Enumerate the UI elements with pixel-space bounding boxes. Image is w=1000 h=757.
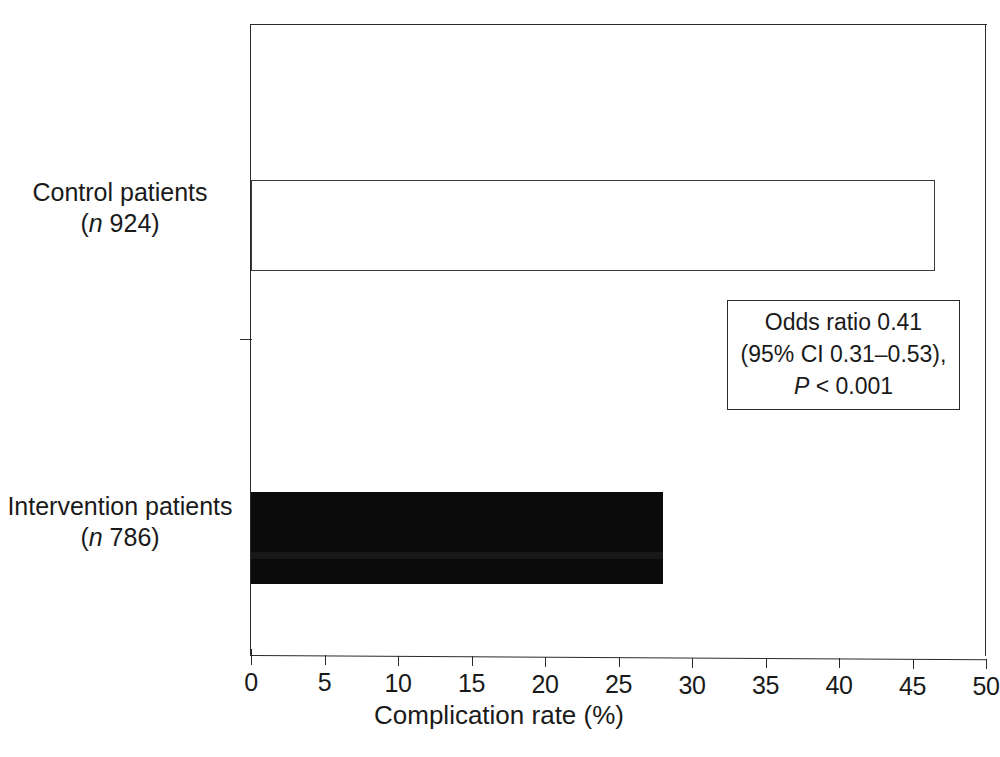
x-axis-tick-20	[545, 657, 546, 667]
p-value-line: P < 0.001	[794, 372, 893, 402]
x-axis-tick-25	[619, 657, 620, 667]
category-label-control-line1: Control patients	[0, 177, 245, 208]
x-axis-tick-label-0: 0	[244, 668, 258, 697]
x-axis-tick-label-35: 35	[752, 671, 779, 700]
x-axis-tick-15	[472, 656, 473, 666]
odds-ratio-annotation-box: Odds ratio 0.41 (95% CI 0.31–0.53), P < …	[727, 300, 960, 410]
bar-control-patients	[251, 180, 935, 271]
x-axis-title: Complication rate (%)	[0, 700, 998, 731]
x-axis-tick-label-5: 5	[318, 668, 332, 697]
x-axis-tick-10	[398, 656, 399, 666]
x-axis-tick-label-15: 15	[458, 669, 485, 698]
category-label-intervention-line1: Intervention patients	[0, 491, 245, 522]
confidence-interval-line: (95% CI 0.31–0.53),	[741, 340, 947, 370]
plot-frame-top	[251, 24, 987, 25]
x-axis-tick-label-20: 20	[531, 670, 558, 699]
x-axis-tick-0	[251, 649, 252, 665]
x-axis-tick-label-40: 40	[825, 671, 852, 700]
italic-n-intervention: n	[89, 523, 103, 551]
x-axis-tick-50	[986, 659, 987, 669]
x-axis-tick-30	[692, 658, 693, 668]
italic-n-control: n	[89, 209, 103, 237]
x-axis-tick-5	[325, 655, 326, 665]
x-axis-tick-label-45: 45	[899, 672, 926, 701]
category-label-control: Control patients (n 924)	[0, 177, 245, 238]
x-axis-tick-label-50: 50	[972, 672, 999, 701]
plot-frame-right	[985, 24, 986, 656]
category-label-intervention: Intervention patients (n 786)	[0, 491, 245, 552]
x-axis-tick-label-25: 25	[605, 670, 632, 699]
x-axis-tick-label-30: 30	[678, 671, 705, 700]
x-axis-tick-35	[766, 658, 767, 668]
figure-caption-clipped	[8, 745, 488, 757]
y-axis-tick	[240, 339, 252, 340]
x-axis-tick-45	[913, 659, 914, 669]
category-label-control-n: (n 924)	[0, 208, 245, 239]
odds-ratio-line: Odds ratio 0.41	[765, 308, 922, 338]
bar-intervention-patients	[251, 492, 663, 584]
italic-p: P	[794, 373, 809, 399]
x-axis-tick-40	[839, 658, 840, 668]
x-axis-tick-label-10: 10	[384, 669, 411, 698]
category-label-intervention-n: (n 786)	[0, 522, 245, 553]
